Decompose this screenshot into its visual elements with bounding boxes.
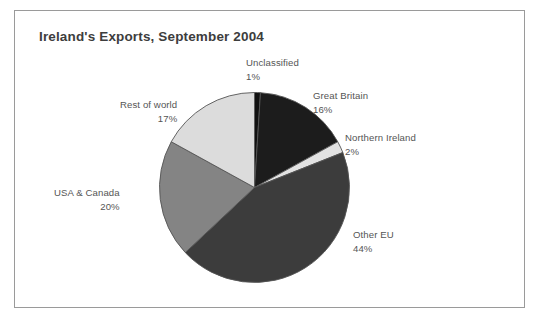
pie-label-name: Great Britain xyxy=(313,89,368,103)
pie-label-percent: 20% xyxy=(54,200,120,214)
pie-label-name: Unclassified xyxy=(246,56,299,70)
pie-label-percent: 1% xyxy=(246,70,299,84)
pie-label-name: Northern Ireland xyxy=(345,131,416,145)
pie-label-northern-ireland: Northern Ireland 2% xyxy=(345,131,416,158)
pie-label-rest-of-world: Rest of world 17% xyxy=(120,98,177,125)
pie-label-percent: 2% xyxy=(345,145,416,159)
pie-label-usa-canada: USA & Canada 20% xyxy=(54,186,120,213)
pie-label-name: Rest of world xyxy=(120,98,177,112)
pie-label-percent: 17% xyxy=(120,112,177,126)
pie-label-name: Other EU xyxy=(353,228,394,242)
page-title: Ireland's Exports, September 2004 xyxy=(39,29,264,44)
chart-figure: Ireland's Exports, September 2004 Unclas… xyxy=(0,0,539,318)
pie-label-other-eu: Other EU 44% xyxy=(353,228,394,255)
pie-label-name: USA & Canada xyxy=(54,186,120,200)
pie-label-unclassified: Unclassified 1% xyxy=(246,56,299,83)
pie-label-percent: 16% xyxy=(313,103,368,117)
pie-label-great-britain: Great Britain 16% xyxy=(313,89,368,116)
chart-card: Ireland's Exports, September 2004 xyxy=(14,10,525,308)
pie-label-percent: 44% xyxy=(353,242,394,256)
